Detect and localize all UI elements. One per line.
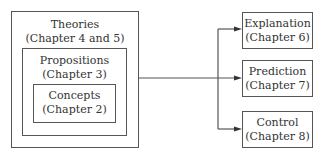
control-box: Control (Chapter 8) [242,111,313,148]
arrow-prediction-icon [234,76,242,81]
control-title: Control [243,116,312,130]
control-subtitle: (Chapter 8) [243,130,312,144]
explanation-box: Explanation (Chapter 6) [242,12,313,49]
theories-subtitle: (Chapter 4 and 5) [12,32,138,46]
explanation-title: Explanation [243,17,312,31]
arrow-explanation-icon [234,27,242,32]
explanation-subtitle: (Chapter 6) [243,31,312,45]
arrow-control-icon [234,127,242,132]
concepts-subtitle: (Chapter 2) [34,103,115,117]
prediction-subtitle: (Chapter 7) [243,79,312,93]
concepts-title: Concepts [34,89,115,103]
prediction-box: Prediction (Chapter 7) [242,60,313,97]
propositions-title: Propositions [23,54,126,68]
prediction-title: Prediction [243,65,312,79]
concepts-box: Concepts (Chapter 2) [33,84,116,123]
theories-title: Theories [12,18,138,32]
propositions-subtitle: (Chapter 3) [23,68,126,82]
